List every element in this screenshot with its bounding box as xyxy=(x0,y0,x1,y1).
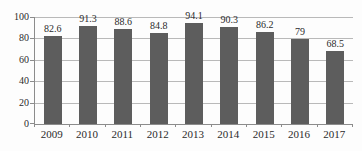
bar-column: 82.6 xyxy=(35,17,70,124)
bar-columns: 82.691.388.684.894.190.386.27968.5 xyxy=(35,17,353,124)
y-axis-tick xyxy=(30,60,34,61)
x-axis-label: 2011 xyxy=(105,128,140,141)
bar-column: 68.5 xyxy=(318,17,353,124)
x-axis-tick xyxy=(34,124,35,127)
plot-area: 82.691.388.684.894.190.386.27968.5 xyxy=(34,17,353,125)
bar xyxy=(114,29,132,124)
y-axis-tick xyxy=(30,38,34,39)
x-axis: 200920102011201220132014201520162017 xyxy=(34,128,352,141)
y-axis-tick xyxy=(30,81,34,82)
x-axis-tick xyxy=(69,124,70,127)
bar xyxy=(291,39,309,124)
bar-column: 88.6 xyxy=(106,17,141,124)
bar-column: 91.3 xyxy=(70,17,105,124)
x-axis-label: 2009 xyxy=(34,128,69,141)
bar xyxy=(44,36,62,124)
bar xyxy=(150,33,168,124)
x-axis-label: 2012 xyxy=(140,128,175,141)
x-axis-tick xyxy=(281,124,282,127)
bar xyxy=(185,23,203,124)
x-axis-tick xyxy=(317,124,318,127)
y-axis-tick xyxy=(30,103,34,104)
y-axis-tick xyxy=(30,17,34,18)
x-axis-label: 2014 xyxy=(211,128,246,141)
bar xyxy=(256,32,274,124)
x-axis-label: 2016 xyxy=(281,128,316,141)
x-axis-tick xyxy=(211,124,212,127)
x-axis-label: 2013 xyxy=(175,128,210,141)
x-axis-label: 2015 xyxy=(246,128,281,141)
y-axis-tick-label: 100 xyxy=(14,11,29,23)
bar xyxy=(220,27,238,124)
bar-value-label: 68.5 xyxy=(310,38,361,49)
bar-chart: 020406080100 82.691.388.684.894.190.386.… xyxy=(0,0,362,151)
x-axis-tick xyxy=(105,124,106,127)
bar-column: 90.3 xyxy=(212,17,247,124)
y-axis-tick-label: 20 xyxy=(19,97,29,109)
x-axis-tick xyxy=(246,124,247,127)
bar xyxy=(79,26,97,124)
y-axis-tick-label: 0 xyxy=(24,118,29,130)
y-axis: 020406080100 xyxy=(0,17,29,124)
x-axis-tick xyxy=(352,124,353,127)
x-axis-tick xyxy=(140,124,141,127)
x-axis-label: 2010 xyxy=(69,128,104,141)
y-axis-tick-label: 40 xyxy=(19,75,29,87)
x-axis-label: 2017 xyxy=(317,128,352,141)
y-axis-tick-label: 80 xyxy=(19,32,29,44)
x-axis-tick xyxy=(175,124,176,127)
bar xyxy=(326,51,344,124)
bar-column: 94.1 xyxy=(176,17,211,124)
bar-column: 79 xyxy=(282,17,317,124)
y-axis-tick-label: 60 xyxy=(19,54,29,66)
bar-column: 84.8 xyxy=(141,17,176,124)
